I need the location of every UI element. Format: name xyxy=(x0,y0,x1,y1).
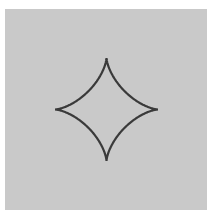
astroid-figure xyxy=(0,0,212,217)
astroid-curve xyxy=(55,58,158,161)
